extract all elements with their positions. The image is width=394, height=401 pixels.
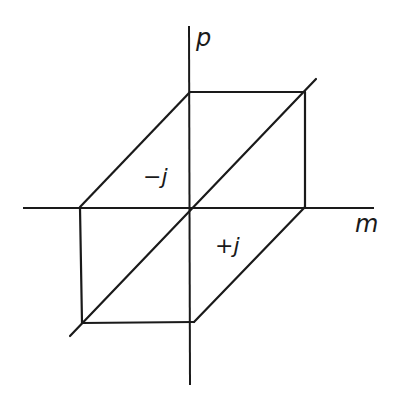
upper-left-diagonal — [80, 92, 190, 207]
lower-right-diagonal — [194, 207, 305, 322]
bottom-edge — [82, 322, 194, 323]
diagram-canvas — [0, 0, 394, 401]
m-axis-label: m — [355, 212, 378, 236]
p-axis — [189, 26, 190, 385]
plus-j-label: +j — [215, 235, 240, 257]
left-vertical-edge — [80, 208, 82, 323]
minus-j-label: −j — [143, 166, 168, 188]
p-axis-label: p — [196, 26, 211, 50]
